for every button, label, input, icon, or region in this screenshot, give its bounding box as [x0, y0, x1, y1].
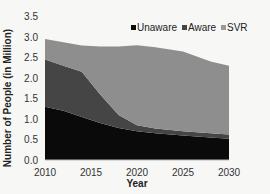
x-tick-label: 2030	[218, 167, 241, 178]
y-tick-label: 2.0	[24, 73, 38, 84]
legend: UnawareAwareSVR	[131, 22, 248, 33]
x-tick-label: 2020	[126, 167, 149, 178]
x-axis-ticks: 20102015202020252030	[34, 167, 241, 178]
x-axis-title: Year	[126, 178, 147, 189]
y-tick-label: 1.5	[24, 93, 38, 104]
y-tick-label: 0.5	[24, 134, 38, 145]
y-tick-label: 1.0	[24, 114, 38, 125]
y-tick-label: 3.5	[24, 11, 38, 22]
legend-label-aware: Aware	[188, 22, 217, 33]
stacked-area-chart: 0.00.51.01.52.02.53.03.5 201020152020202…	[0, 0, 270, 194]
y-tick-label: 2.5	[24, 52, 38, 63]
legend-label-svr: SVR	[227, 22, 248, 33]
x-tick-label: 2010	[34, 167, 57, 178]
legend-swatch-unaware	[131, 25, 136, 30]
y-tick-label: 3.0	[24, 32, 38, 43]
x-tick-label: 2015	[80, 167, 103, 178]
legend-swatch-aware	[182, 25, 187, 30]
plot-areas	[45, 39, 229, 160]
y-axis-title: Number of People (in Million)	[2, 29, 13, 167]
legend-label-unaware: Unaware	[137, 22, 177, 33]
legend-swatch-svr	[221, 25, 226, 30]
x-tick-label: 2025	[172, 167, 195, 178]
y-axis-ticks: 0.00.51.01.52.02.53.03.5	[24, 11, 38, 166]
y-tick-label: 0.0	[24, 155, 38, 166]
